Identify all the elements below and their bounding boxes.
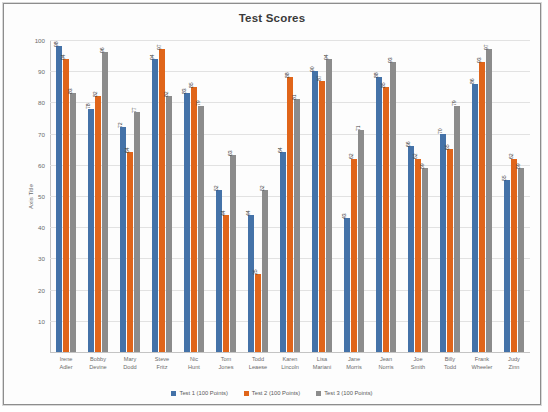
y-axis-title-label: Axis Title	[27, 184, 34, 209]
bar-value-label: 44	[221, 210, 226, 216]
bar-group: 648881	[274, 40, 306, 352]
bar-value-label: 52	[213, 185, 218, 191]
bar-value-label: 64	[125, 147, 130, 153]
bar: 59	[518, 168, 524, 352]
bar: 94	[63, 59, 69, 352]
bar-group: 442552	[242, 40, 274, 352]
bar: 64	[280, 152, 286, 352]
bar-value-label: 62	[509, 154, 514, 160]
bar-value-label: 81	[292, 94, 297, 100]
bar: 88	[287, 77, 293, 352]
bar-value-label: 88	[373, 73, 378, 79]
x-axis-category-label: Bobby Devine	[82, 356, 114, 371]
bar-value-label: 64	[277, 147, 282, 153]
bar: 78	[88, 109, 94, 352]
bar: 90	[312, 71, 318, 352]
bar-group: 949782	[146, 40, 178, 352]
chart-title: Test Scores	[4, 12, 540, 24]
bar-group: 556259	[498, 40, 530, 352]
bar-value-label: 85	[189, 82, 194, 88]
bar-value-label: 98	[53, 41, 58, 47]
legend-swatch-icon	[244, 391, 249, 396]
bar-value-label: 93	[477, 57, 482, 63]
bar-value-label: 59	[516, 163, 521, 169]
bar: 93	[390, 62, 396, 352]
chart-frame: Test Scores Axis Title 10203040506070809…	[3, 3, 541, 405]
bar: 85	[383, 87, 389, 352]
x-axis-category-label: Joe Smith	[402, 356, 434, 371]
bar: 98	[56, 46, 62, 352]
bar-value-label: 65	[445, 144, 450, 150]
bar-value-label: 86	[469, 79, 474, 85]
bar: 82	[95, 96, 101, 352]
bar-value-label: 83	[181, 88, 186, 94]
bar-value-label: 44	[245, 210, 250, 216]
bar-group: 869397	[466, 40, 498, 352]
bar: 88	[376, 77, 382, 352]
bar-value-label: 94	[149, 54, 154, 60]
bar: 83	[70, 93, 76, 352]
x-axis-category-label: Jean Norris	[370, 356, 402, 371]
bar: 52	[262, 190, 268, 352]
bar: 72	[120, 127, 126, 352]
bar-group: 788296	[82, 40, 114, 352]
bar: 81	[294, 99, 300, 352]
bar-group: 888593	[370, 40, 402, 352]
gridline	[50, 352, 530, 353]
bar-value-label: 70	[437, 129, 442, 135]
bar-value-label: 25	[253, 269, 258, 275]
bar: 71	[358, 130, 364, 352]
bar: 96	[102, 52, 108, 352]
bar-value-label: 78	[85, 104, 90, 110]
bar-group: 908794	[306, 40, 338, 352]
bar: 62	[511, 159, 517, 352]
bar-value-label: 83	[68, 88, 73, 94]
bar: 62	[351, 159, 357, 352]
bar-value-label: 62	[349, 154, 354, 160]
bar-group: 706579	[434, 40, 466, 352]
bar-value-label: 43	[341, 213, 346, 219]
bar-value-label: 72	[117, 122, 122, 128]
y-axis-tick-label: 20	[38, 286, 45, 293]
bar: 66	[408, 146, 414, 352]
x-axis-category-label: Mary Dodd	[114, 356, 146, 371]
x-axis-category-label: Steve Fritz	[146, 356, 178, 371]
bar-value-label: 66	[405, 141, 410, 147]
x-axis-category-label: Tom Jones	[210, 356, 242, 371]
bar: 97	[486, 49, 492, 352]
bar-value-label: 90	[309, 66, 314, 72]
x-axis-category-label: Jane Morris	[338, 356, 370, 371]
bar-value-label: 85	[381, 82, 386, 88]
x-axis-category-label: Todd Leaese	[242, 356, 274, 371]
bar-value-label: 55	[501, 176, 506, 182]
y-axis-tick-label: 60	[38, 161, 45, 168]
bar: 64	[127, 152, 133, 352]
x-axis-category-label: Judy Zinn	[498, 356, 530, 371]
x-axis-category-label: Billy Todd	[434, 356, 466, 371]
bar-value-label: 71	[356, 126, 361, 132]
bar: 70	[440, 134, 446, 352]
legend-label: Test 3 (100 Points)	[324, 390, 372, 396]
bar: 55	[504, 180, 510, 352]
bar-value-label: 82	[93, 91, 98, 97]
bar: 79	[454, 106, 460, 352]
y-axis-tick-label: 80	[38, 99, 45, 106]
bar: 93	[479, 62, 485, 352]
legend-item[interactable]: Test 3 (100 Points)	[316, 390, 372, 396]
bar-value-label: 79	[452, 101, 457, 107]
x-axis-category-label: Irene Adler	[50, 356, 82, 371]
bar-value-label: 94	[61, 54, 66, 60]
y-axis-tick-label: 100	[35, 37, 45, 44]
legend-item[interactable]: Test 1 (100 Points)	[171, 390, 227, 396]
y-axis-tick-label: 90	[38, 68, 45, 75]
bar-value-label: 52	[260, 185, 265, 191]
legend-swatch-icon	[171, 391, 176, 396]
legend-swatch-icon	[316, 391, 321, 396]
legend-item[interactable]: Test 2 (100 Points)	[244, 390, 300, 396]
bar-value-label: 82	[164, 91, 169, 97]
bar: 77	[134, 112, 140, 352]
bar: 86	[472, 84, 478, 352]
bar-group: 666259	[402, 40, 434, 352]
bar: 44	[248, 215, 254, 352]
bar: 94	[326, 59, 332, 352]
